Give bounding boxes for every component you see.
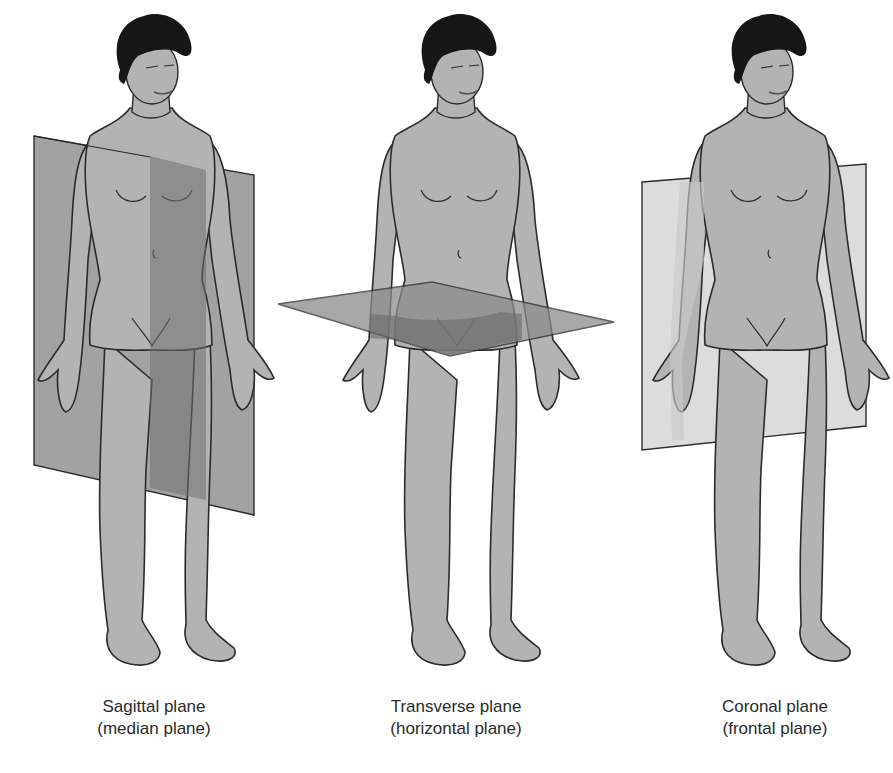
transverse-panel [278, 14, 614, 665]
caption-sagittal: Sagittal plane (median plane) [34, 696, 274, 740]
coronal-panel [642, 14, 889, 665]
sagittal-panel [34, 14, 274, 665]
caption-coronal: Coronal plane (frontal plane) [655, 696, 893, 740]
body-figure-coronal [653, 14, 889, 665]
caption-coronal-title: Coronal plane [655, 696, 893, 718]
caption-transverse: Transverse plane (horizontal plane) [336, 696, 576, 740]
caption-transverse-subtitle: (horizontal plane) [336, 718, 576, 740]
caption-sagittal-title: Sagittal plane [34, 696, 274, 718]
caption-transverse-title: Transverse plane [336, 696, 576, 718]
caption-coronal-subtitle: (frontal plane) [655, 718, 893, 740]
anatomical-planes-diagram [0, 0, 893, 773]
caption-sagittal-subtitle: (median plane) [34, 718, 274, 740]
sagittal-plane-overlap [150, 156, 206, 500]
